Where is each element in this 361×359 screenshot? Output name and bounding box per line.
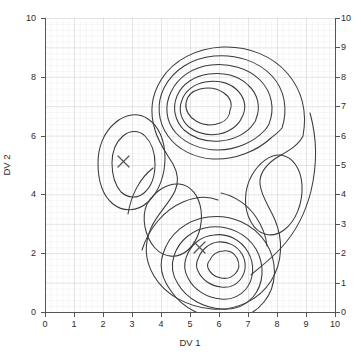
x-tick-4 [161, 313, 162, 317]
x-tick-label-10: 10 [330, 319, 340, 329]
y-tick-label-right-1: 1 [341, 278, 346, 288]
y-tick-label-left-6: 6 [31, 131, 36, 141]
x-tick-label-2: 2 [100, 319, 105, 329]
y-tick-left-8 [41, 77, 45, 78]
x-tick-3 [132, 313, 133, 317]
plot-area [45, 18, 335, 312]
contour-plot-figure: 0123456789100246810012345678910 DV 1 DV … [0, 0, 361, 359]
y-tick-label-left-10: 10 [26, 13, 36, 23]
y-tick-right-8 [336, 77, 340, 78]
y-tick-right-4 [336, 194, 340, 195]
x-tick-1 [74, 313, 75, 317]
y-tick-left-10 [41, 18, 45, 19]
y-tick-right-5 [336, 165, 340, 166]
y-tick-label-right-5: 5 [341, 160, 346, 170]
y-tick-right-0 [336, 312, 340, 313]
y-tick-right-9 [336, 47, 340, 48]
y-tick-right-6 [336, 136, 340, 137]
x-tick-label-8: 8 [274, 319, 279, 329]
y-tick-left-6 [41, 136, 45, 137]
x-tick-label-7: 7 [245, 319, 250, 329]
y-tick-label-right-8: 8 [341, 72, 346, 82]
x-tick-7 [248, 313, 249, 317]
y-tick-left-2 [41, 253, 45, 254]
y-tick-right-3 [336, 224, 340, 225]
x-tick-9 [306, 313, 307, 317]
y-tick-left-0 [41, 312, 45, 313]
y-tick-label-right-4: 4 [341, 189, 346, 199]
x-tick-label-5: 5 [187, 319, 192, 329]
y-tick-right-7 [336, 106, 340, 107]
y-tick-label-left-8: 8 [31, 72, 36, 82]
x-tick-label-3: 3 [129, 319, 134, 329]
y-tick-right-10 [336, 18, 340, 19]
y-tick-label-left-0: 0 [31, 307, 36, 317]
x-axis-title: DV 1 [179, 337, 200, 348]
x-tick-2 [103, 313, 104, 317]
y-tick-label-left-4: 4 [31, 189, 36, 199]
y-tick-right-1 [336, 283, 340, 284]
y-tick-label-right-0: 0 [341, 307, 346, 317]
contour-canvas [45, 18, 335, 312]
y-axis-title: DV 2 [1, 154, 12, 175]
x-tick-10 [335, 313, 336, 317]
x-tick-label-0: 0 [42, 319, 47, 329]
x-tick-label-9: 9 [303, 319, 308, 329]
x-tick-5 [190, 313, 191, 317]
x-tick-label-6: 6 [216, 319, 221, 329]
y-tick-label-right-6: 6 [341, 131, 346, 141]
x-tick-6 [219, 313, 220, 317]
x-tick-0 [45, 313, 46, 317]
y-tick-label-left-2: 2 [31, 248, 36, 258]
y-tick-label-right-2: 2 [341, 248, 346, 258]
x-tick-label-4: 4 [158, 319, 163, 329]
y-tick-label-right-9: 9 [341, 42, 346, 52]
x-tick-label-1: 1 [71, 319, 76, 329]
y-tick-label-right-7: 7 [341, 101, 346, 111]
y-tick-label-right-10: 10 [341, 13, 351, 23]
axis-spine-left [45, 18, 46, 313]
y-tick-right-2 [336, 253, 340, 254]
y-tick-left-4 [41, 194, 45, 195]
x-tick-8 [277, 313, 278, 317]
y-tick-label-right-3: 3 [341, 219, 346, 229]
